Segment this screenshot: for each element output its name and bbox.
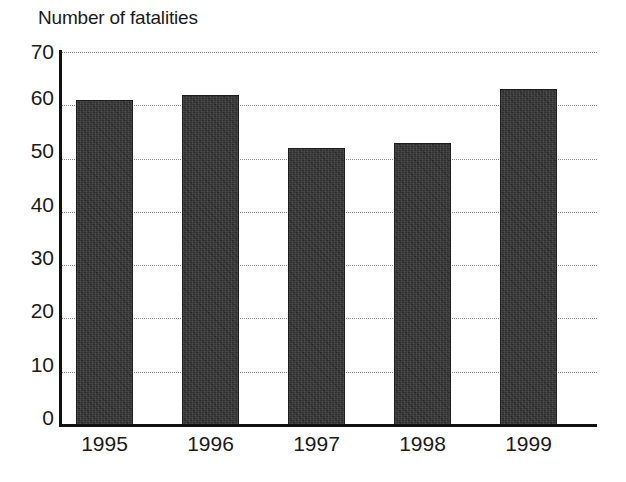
x-tick-label-1996: 1996	[182, 432, 239, 456]
x-tick-label-1998: 1998	[394, 432, 451, 456]
y-tick-label-0: 0	[8, 407, 54, 428]
y-tick-label-40: 40	[8, 194, 54, 215]
y-axis-tick-labels: 70 60 50 40 30 20 10 0	[0, 0, 54, 482]
x-tick-label-1999: 1999	[500, 432, 557, 456]
y-tick-label-70: 70	[8, 41, 54, 62]
y-tick-label-30: 30	[8, 247, 54, 268]
bar-1998[interactable]	[394, 143, 451, 425]
bar-chart-figure: Number of fatalities 70 60 50 40 30 20 1…	[0, 0, 626, 482]
y-tick-label-10: 10	[8, 354, 54, 375]
bar-1997[interactable]	[288, 148, 345, 425]
y-tick-label-50: 50	[8, 140, 54, 161]
y-tick-label-20: 20	[8, 300, 54, 321]
bar-1999[interactable]	[500, 89, 557, 425]
bar-1995[interactable]	[76, 100, 133, 425]
bar-1996[interactable]	[182, 95, 239, 425]
x-axis-tick-labels: 1995 1996 1997 1998 1999	[62, 432, 597, 472]
y-tick-label-60: 60	[8, 87, 54, 108]
chart-title: Number of fatalities	[38, 7, 198, 29]
x-tick-label-1997: 1997	[288, 432, 345, 456]
plot-area	[62, 52, 597, 425]
x-tick-label-1995: 1995	[76, 432, 133, 456]
y-axis-line	[59, 50, 62, 427]
x-axis-line	[59, 424, 597, 427]
gridline-70	[62, 52, 597, 53]
